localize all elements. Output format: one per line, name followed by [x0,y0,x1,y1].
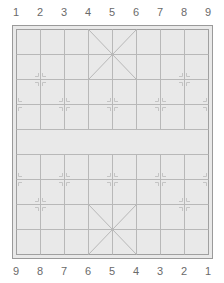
file-label: 8 [32,264,48,278]
file-label: 5 [104,264,120,278]
board-grid [0,0,224,283]
file-label: 7 [56,264,72,278]
file-label: 4 [128,264,144,278]
file-label: 1 [200,264,216,278]
file-label: 2 [176,264,192,278]
file-label: 9 [8,264,24,278]
file-label: 3 [152,264,168,278]
bottom-file-labels: 9 8 7 6 5 4 3 2 1 [0,264,224,278]
file-label: 6 [80,264,96,278]
xiangqi-board[interactable] [0,0,224,283]
